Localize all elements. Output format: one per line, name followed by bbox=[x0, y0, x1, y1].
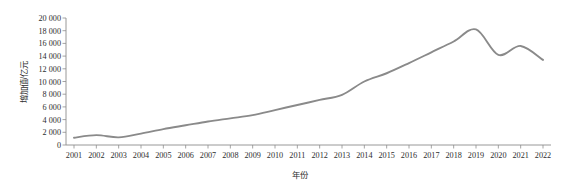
y-tick-label: 16 000 bbox=[38, 39, 61, 48]
x-tick-label: 2009 bbox=[244, 151, 260, 160]
y-tick-label: 2 000 bbox=[43, 128, 61, 137]
x-tick-label: 2006 bbox=[177, 151, 193, 160]
x-tick-label: 2002 bbox=[88, 151, 104, 160]
x-axis-title: 年份 bbox=[292, 170, 309, 180]
x-axis-ticks bbox=[74, 145, 543, 149]
y-tick-label: 10 000 bbox=[38, 78, 61, 87]
x-tick-label: 2012 bbox=[311, 151, 327, 160]
x-tick-label: 2016 bbox=[401, 151, 417, 160]
x-tick-label: 2019 bbox=[468, 151, 484, 160]
x-tick-label: 2013 bbox=[334, 151, 350, 160]
y-tick-label: 14 000 bbox=[38, 52, 61, 61]
x-tick-label: 2011 bbox=[289, 151, 305, 160]
data-series-line bbox=[74, 29, 543, 138]
y-tick-label: 4 000 bbox=[43, 116, 61, 125]
y-tick-label: 6 000 bbox=[43, 103, 61, 112]
x-tick-label: 2008 bbox=[222, 151, 238, 160]
y-tick-label: 12 000 bbox=[38, 65, 61, 74]
x-tick-label: 2015 bbox=[378, 151, 394, 160]
x-tick-label: 2022 bbox=[535, 151, 551, 160]
x-axis-tick-labels: 2001200220032004200520062007200820092010… bbox=[66, 151, 551, 160]
x-tick-label: 2003 bbox=[110, 151, 126, 160]
x-tick-label: 2007 bbox=[200, 151, 216, 160]
x-tick-label: 2020 bbox=[490, 151, 506, 160]
x-tick-label: 2018 bbox=[445, 151, 461, 160]
chart-figure: 增加值/亿元 年份 20 000 18 000 16 000 14 000 12… bbox=[0, 0, 563, 185]
x-tick-label: 2005 bbox=[155, 151, 171, 160]
x-tick-label: 2001 bbox=[66, 151, 82, 160]
x-tick-label: 2021 bbox=[512, 151, 528, 160]
y-tick-label: 20 000 bbox=[38, 14, 61, 23]
y-axis-title: 增加值/亿元 bbox=[19, 60, 29, 103]
x-tick-label: 2017 bbox=[423, 151, 439, 160]
x-tick-label: 2004 bbox=[133, 151, 149, 160]
line-chart-canvas: 增加值/亿元 年份 20 000 18 000 16 000 14 000 12… bbox=[0, 0, 563, 185]
y-tick-label: 8 000 bbox=[43, 90, 61, 99]
x-tick-label: 2010 bbox=[267, 151, 283, 160]
x-tick-label: 2014 bbox=[356, 151, 372, 160]
y-tick-label: 18 000 bbox=[38, 27, 61, 36]
y-tick-label: 0 bbox=[57, 141, 61, 150]
